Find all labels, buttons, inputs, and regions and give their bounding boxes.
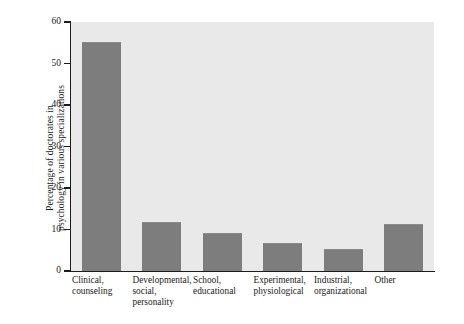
bar-chart-figure: Percentage of doctorates in psychology i…	[0, 0, 464, 324]
x-axis-label: Developmental,social,personality	[133, 275, 194, 308]
bar[interactable]	[82, 42, 121, 271]
x-axis-label-line: Experimental,	[254, 275, 315, 286]
bar[interactable]	[203, 233, 242, 271]
bar[interactable]	[263, 243, 302, 271]
bars-layer	[71, 22, 434, 271]
x-axis-label-line: educational	[193, 286, 254, 297]
y-axis-tick-label: 10	[0, 223, 61, 233]
y-axis-tick-label: 30	[0, 140, 61, 150]
bar[interactable]	[384, 224, 423, 271]
y-axis-tick-label: 60	[0, 16, 61, 26]
x-axis-label: Clinical,counseling	[72, 275, 133, 297]
y-axis-tick-label: 50	[0, 57, 61, 67]
x-axis-label-line: counseling	[72, 286, 133, 297]
y-axis-tick	[64, 63, 71, 64]
x-axis-label-line: physiological	[254, 286, 315, 297]
x-axis-label: Other	[375, 275, 436, 286]
x-axis-labels: Clinical,counselingDevelopmental,social,…	[71, 275, 434, 320]
x-axis-label-line: Industrial,	[314, 275, 375, 286]
x-axis-label-line: Developmental,	[133, 275, 194, 286]
x-axis-label-line: personality	[133, 297, 194, 308]
x-axis-label-line: Clinical,	[72, 275, 133, 286]
y-axis-tick	[64, 146, 71, 147]
y-axis-title: Percentage of doctorates in psychology i…	[41, 33, 71, 283]
x-axis-label-line: organizational	[314, 286, 375, 297]
x-axis-label: Experimental,physiological	[254, 275, 315, 297]
y-axis-title-line-1: Percentage of doctorates in	[45, 105, 56, 211]
bar[interactable]	[142, 222, 181, 271]
x-axis-label-line: School,	[193, 275, 254, 286]
y-axis-tick	[64, 187, 71, 188]
y-axis-tick	[64, 104, 71, 105]
x-axis-label: Industrial,organizational	[314, 275, 375, 297]
y-axis-tick-label: 0	[0, 265, 61, 275]
bar[interactable]	[324, 249, 363, 271]
y-axis-tick	[64, 229, 71, 230]
x-axis-label-line: social,	[133, 286, 194, 297]
x-axis-label-line: Other	[375, 275, 436, 286]
y-axis-tick-label: 20	[0, 182, 61, 192]
y-axis-tick	[64, 21, 71, 22]
y-axis-tick	[64, 270, 71, 271]
x-axis-label: School,educational	[193, 275, 254, 297]
y-axis-tick-label: 40	[0, 99, 61, 109]
